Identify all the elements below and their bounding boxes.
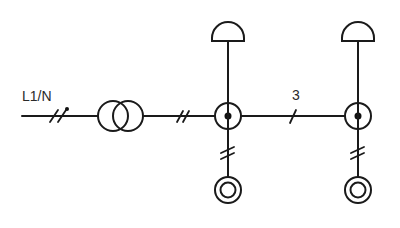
supply-conductor-marks xyxy=(50,107,69,122)
outlet-1-icon xyxy=(215,177,241,203)
lamp-2-icon xyxy=(342,22,374,41)
wiring-diagram: L1/N 3 xyxy=(0,0,400,228)
lamp-1-icon xyxy=(212,22,244,41)
transformer-symbol xyxy=(98,101,143,131)
outlet-2-icon xyxy=(345,177,371,203)
conductor-count-label: 3 xyxy=(292,87,300,103)
supply-label: L1/N xyxy=(22,88,52,104)
